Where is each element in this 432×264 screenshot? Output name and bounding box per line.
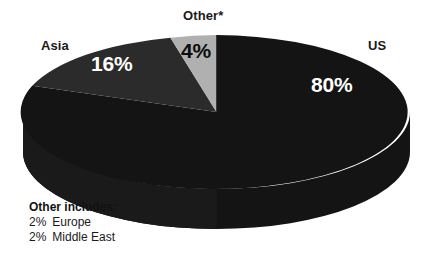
slice-label-us: US	[368, 38, 386, 53]
footnote-block: Other includes: 2% Europe 2% Middle East	[29, 200, 229, 245]
footnote-percent: 2%	[29, 215, 49, 230]
slice-value-other: 4%	[181, 39, 211, 63]
pie-top-face	[21, 35, 408, 189]
footnote-region: Europe	[52, 215, 91, 229]
footnote-title: Other includes:	[29, 200, 229, 215]
footnote-row: 2% Europe	[29, 215, 229, 230]
slice-value-us: 80%	[311, 73, 352, 97]
slice-value-asia: 16%	[91, 52, 132, 76]
slice-label-other: Other*	[183, 8, 223, 23]
slice-label-asia: Asia	[41, 38, 69, 53]
footnote-row: 2% Middle East	[29, 230, 229, 245]
footnote-percent: 2%	[29, 230, 49, 245]
pie-chart-figure: Other* Asia US 80% 16% 4% Other includes…	[0, 0, 432, 264]
footnote-region: Middle East	[52, 230, 115, 244]
